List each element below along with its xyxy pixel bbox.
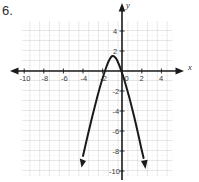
xtick-label: 4 [159, 74, 163, 83]
worksheet-problem-figure: 6. x y -1 [0, 0, 199, 182]
xtick-label: -10 [20, 74, 31, 83]
ytick-label: -8 [113, 147, 120, 156]
xtick-label: -8 [42, 74, 49, 83]
ytick-label: 4 [113, 27, 117, 36]
xtick-label: 2 [140, 74, 144, 83]
ytick-label: 2 [113, 47, 117, 56]
coordinate-graph: x y -10 -8 -6 -4 -2 0 2 4 4 2 -2 -4 -6 -… [0, 0, 199, 182]
ytick-label: -10 [109, 167, 120, 176]
ytick-label: -4 [113, 107, 120, 116]
ytick-label: -6 [113, 127, 120, 136]
xtick-label: -4 [81, 74, 88, 83]
x-axis-label: x [187, 62, 192, 72]
xtick-label: -6 [61, 74, 68, 83]
y-axis-label: y [125, 0, 130, 10]
ytick-label: -2 [113, 87, 120, 96]
